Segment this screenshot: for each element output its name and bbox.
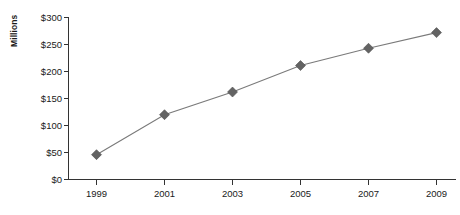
y-tick-label-100: $100 [41,120,62,131]
line-chart: Millions $300 $250 $200 $150 $100 $50 $0… [0,0,460,215]
y-tick-label-200: $200 [41,66,62,77]
y-tick-label-50: $50 [46,147,62,158]
y-tick-label-250: $250 [41,39,62,50]
x-tick-label-2009: 2009 [426,188,447,199]
y-tick-label-150: $150 [41,93,62,104]
y-axis-title: Millions [9,14,19,47]
x-tick-label-2003: 2003 [222,188,243,199]
y-tick-label-300: $300 [41,12,62,23]
x-tick-label-2005: 2005 [290,188,311,199]
x-tick-label-2001: 2001 [154,188,175,199]
chart-canvas: Millions $300 $250 $200 $150 $100 $50 $0… [0,0,460,215]
x-tick-label-2007: 2007 [358,188,379,199]
x-tick-label-1999: 1999 [86,188,107,199]
y-tick-label-0: $0 [51,174,62,185]
